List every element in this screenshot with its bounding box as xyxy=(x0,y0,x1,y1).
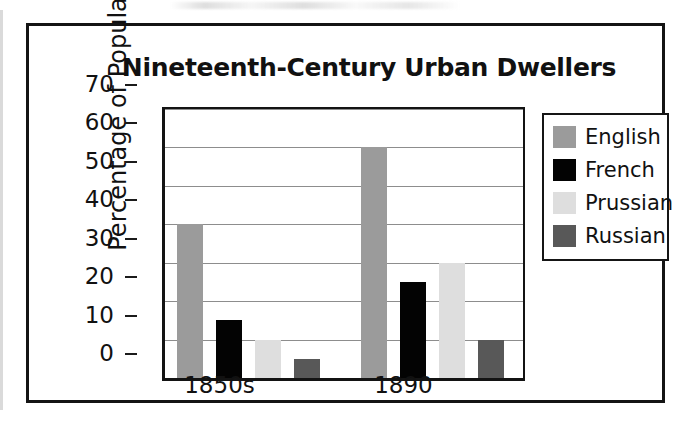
legend-label: English xyxy=(585,127,661,148)
y-axis-tick-mark xyxy=(125,238,137,240)
bar-prussian-1890 xyxy=(439,263,465,378)
y-axis-tick-label: 10 xyxy=(70,304,114,327)
y-axis-tick-mark xyxy=(125,84,137,86)
y-axis-tick-mark xyxy=(125,122,137,124)
y-axis-tick-label: 40 xyxy=(70,188,114,211)
gridline xyxy=(165,301,523,302)
english-swatch xyxy=(553,126,576,148)
chart-title: Nineteenth-Century Urban Dwellers xyxy=(89,53,649,82)
x-axis-tick-label: 1850s xyxy=(160,372,280,398)
gridline xyxy=(165,224,523,225)
bar-english-1890 xyxy=(361,147,387,378)
y-axis-tick-label: 0 xyxy=(70,342,114,365)
y-axis-tick-label: 60 xyxy=(70,111,114,134)
legend-label: French xyxy=(585,160,655,181)
legend: EnglishFrenchPrussianRussian xyxy=(542,113,669,261)
gridline xyxy=(165,109,523,110)
plot-area xyxy=(162,107,525,381)
scan-artifact xyxy=(170,2,460,9)
y-axis-tick-mark xyxy=(125,353,137,355)
legend-item-russian: Russian xyxy=(553,223,666,249)
y-axis-tick-mark xyxy=(125,161,137,163)
gridline xyxy=(165,263,523,264)
chart-screenshot: Nineteenth-Century Urban Dwellers Percen… xyxy=(0,0,677,422)
bar-russian-1890 xyxy=(478,340,504,378)
legend-label: Russian xyxy=(585,226,666,247)
legend-label: Prussian xyxy=(585,193,673,214)
y-axis-tick-mark xyxy=(125,276,137,278)
y-axis-tick-label: 50 xyxy=(70,150,114,173)
gridline xyxy=(165,147,523,148)
scan-edge-artifact xyxy=(0,10,3,410)
y-axis-tick-mark xyxy=(125,199,137,201)
y-axis-tick-mark xyxy=(125,315,137,317)
bar-russian-1850s xyxy=(294,359,320,378)
y-axis-tick-label: 20 xyxy=(70,265,114,288)
x-axis-tick-label: 1890 xyxy=(344,372,464,398)
french-swatch xyxy=(553,159,576,181)
y-axis-tick-label: 70 xyxy=(70,73,114,96)
bar-french-1850s xyxy=(216,320,242,378)
russian-swatch xyxy=(553,225,576,247)
bar-french-1890 xyxy=(400,282,426,378)
prussian-swatch xyxy=(553,192,576,214)
legend-item-prussian: Prussian xyxy=(553,190,673,216)
gridline xyxy=(165,186,523,187)
y-axis-tick-label: 30 xyxy=(70,227,114,250)
figure-frame: Nineteenth-Century Urban Dwellers Percen… xyxy=(26,23,665,403)
legend-item-french: French xyxy=(553,157,655,183)
bar-english-1850s xyxy=(177,224,203,378)
legend-item-english: English xyxy=(553,124,661,150)
